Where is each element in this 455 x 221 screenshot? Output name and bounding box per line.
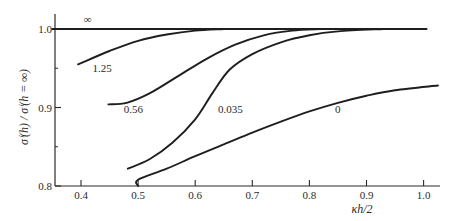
x-ticks: 0.40.50.60.70.80.91.0 — [74, 180, 431, 201]
chart: 0.40.50.60.70.80.91.0 0.80.91.0 ∞1.250.5… — [0, 0, 455, 221]
x-tick-label: 0.6 — [188, 189, 202, 201]
x-tick-label: 0.4 — [74, 189, 88, 201]
curve-label: ∞ — [84, 13, 92, 25]
curve-1.25 — [78, 29, 224, 64]
curve-label: 0.56 — [124, 103, 144, 115]
x-tick-label: 0.8 — [303, 189, 317, 201]
y-ticks: 0.80.91.0 — [38, 23, 61, 192]
curve-label: 0.035 — [218, 103, 243, 115]
curves — [52, 29, 438, 186]
curve-label: 0 — [335, 103, 341, 115]
y-axis-label: σⁱ(h) / σⁱ(h = ∞) — [17, 69, 31, 145]
curve-0.035 — [128, 29, 384, 169]
y-tick-label: 0.8 — [38, 180, 52, 192]
x-tick-label: 0.9 — [360, 189, 374, 201]
x-tick-label: 0.7 — [245, 189, 259, 201]
y-tick-label: 1.0 — [38, 23, 52, 35]
x-tick-label: 1.0 — [417, 189, 431, 201]
curve-label: 1.25 — [92, 62, 112, 74]
x-axis-label: κh/2 — [351, 202, 372, 216]
y-tick-label: 0.9 — [38, 102, 52, 114]
x-tick-label: 0.5 — [131, 189, 145, 201]
